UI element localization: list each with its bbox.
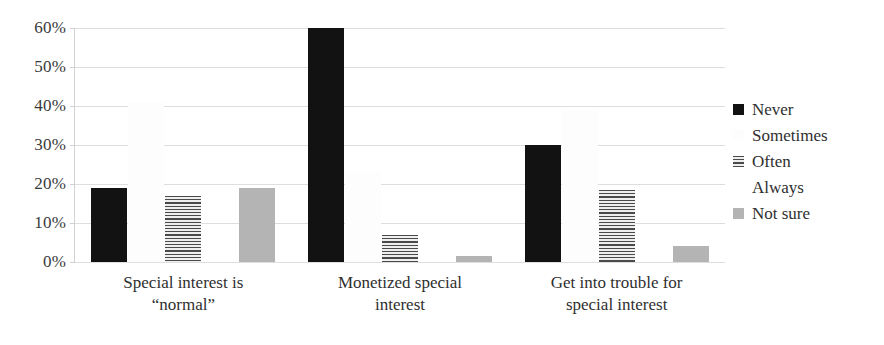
bar-sometimes-group-3 (562, 110, 598, 262)
bar-not-sure-group-3 (673, 246, 709, 262)
bar-never-group-2 (308, 28, 344, 262)
swatch-often-icon (733, 156, 744, 167)
legend-item-label: Never (752, 101, 794, 118)
x-axis-label-line: Monetized special (292, 272, 509, 294)
x-axis-label-line: special interest (508, 294, 725, 316)
bar-sometimes-group-1 (128, 102, 164, 262)
bar-often-group-2 (382, 235, 418, 262)
legend-item-always[interactable]: Always (733, 174, 883, 200)
x-axis-label-line: “normal” (75, 294, 292, 316)
x-axis-label-line: Special interest is (75, 272, 292, 294)
gridline-0 (75, 262, 725, 263)
swatch-sometimes-icon (733, 130, 744, 141)
bar-not-sure-group-2 (456, 256, 492, 262)
x-axis: Special interest is“normal”Monetized spe… (75, 272, 725, 332)
bar-group-2 (292, 28, 509, 262)
swatch-never-icon (733, 104, 744, 115)
x-axis-label-1: Special interest is“normal” (75, 272, 292, 316)
legend-item-label: Always (752, 179, 804, 196)
legend-item-label: Often (752, 153, 791, 170)
y-axis: 60%50%40%30%20%10%0% (4, 0, 66, 345)
legend-item-label: Sometimes (752, 127, 828, 144)
bar-always-group-1 (202, 244, 238, 262)
chart-legend: NeverSometimesOftenAlwaysNot sure (733, 96, 883, 226)
x-axis-label-2: Monetized specialinterest (292, 272, 509, 316)
y-tick-label-0: 0% (10, 253, 66, 270)
legend-item-not-sure[interactable]: Not sure (733, 200, 883, 226)
bar-sometimes-group-2 (345, 172, 381, 262)
legend-item-never[interactable]: Never (733, 96, 883, 122)
swatch-not-sure-icon (733, 208, 744, 219)
y-tick-mark (70, 262, 75, 263)
y-tick-label-30: 30% (10, 136, 66, 153)
bar-often-group-3 (599, 190, 635, 262)
bar-often-group-1 (165, 196, 201, 262)
x-axis-label-3: Get into trouble forspecial interest (508, 272, 725, 316)
legend-item-often[interactable]: Often (733, 148, 883, 174)
swatch-always-icon (733, 182, 744, 193)
bar-always-group-3 (636, 231, 672, 262)
y-tick-label-40: 40% (10, 97, 66, 114)
y-tick-label-50: 50% (10, 58, 66, 75)
bar-never-group-3 (525, 145, 561, 262)
y-tick-label-60: 60% (10, 19, 66, 36)
legend-item-label: Not sure (752, 205, 810, 222)
bar-group-3 (508, 28, 725, 262)
legend-item-sometimes[interactable]: Sometimes (733, 122, 883, 148)
bar-chart: 60%50%40%30%20%10%0% Special interest is… (0, 0, 884, 345)
y-tick-label-10: 10% (10, 214, 66, 231)
bar-group-1 (75, 28, 292, 262)
bar-never-group-1 (91, 188, 127, 262)
y-tick-label-20: 20% (10, 175, 66, 192)
x-axis-label-line: Get into trouble for (508, 272, 725, 294)
bar-not-sure-group-1 (239, 188, 275, 262)
plot-area (75, 20, 725, 262)
x-axis-label-line: interest (292, 294, 509, 316)
bar-always-group-2 (419, 254, 455, 262)
